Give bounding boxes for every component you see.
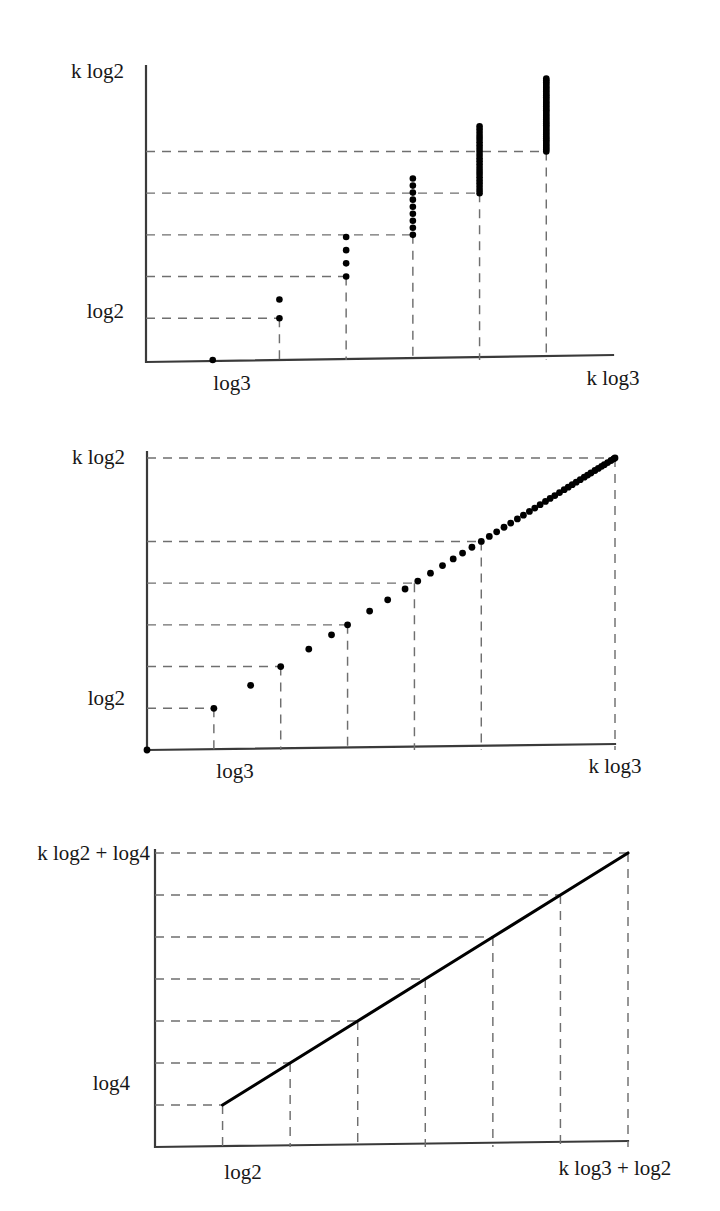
- x-axis-last-label: k log3 + log2: [559, 1156, 672, 1180]
- data-point: [410, 217, 417, 224]
- figure-stack: k log2 log2 log3 k log3 k log2 log2 log3…: [0, 0, 720, 1211]
- data-point: [144, 747, 151, 754]
- data-point: [410, 182, 417, 189]
- data-point: [410, 203, 417, 210]
- figure-scatter-clusters: k log2 log2 log3 k log3: [0, 0, 720, 400]
- data-point: [277, 663, 284, 670]
- data-point: [427, 570, 434, 577]
- data-point: [343, 260, 350, 267]
- data-point: [493, 528, 500, 535]
- data-point: [514, 516, 521, 523]
- data-point: [343, 273, 350, 280]
- x-axis-last-label: k log3: [588, 754, 641, 778]
- figure-1-canvas: k log2 log2 log3 k log3: [0, 0, 720, 400]
- data-point: [328, 631, 335, 638]
- data-point: [476, 123, 483, 130]
- data-point: [478, 538, 485, 545]
- data-point: [209, 357, 216, 364]
- data-point: [343, 234, 350, 241]
- y-axis-top-label: k log2: [72, 445, 125, 469]
- data-point: [247, 682, 254, 689]
- data-point: [276, 315, 283, 322]
- data-point: [410, 225, 417, 232]
- data-point: [410, 210, 417, 217]
- y-axis-low-label: log2: [88, 686, 125, 710]
- y-axis-top-label: k log2: [71, 59, 124, 83]
- data-point: [543, 75, 550, 82]
- data-point: [210, 705, 217, 712]
- data-point: [305, 646, 312, 653]
- data-point: [439, 562, 446, 569]
- data-point: [402, 586, 409, 593]
- figure-2-data-points: [144, 455, 619, 754]
- data-point: [469, 544, 476, 551]
- data-point: [366, 608, 373, 615]
- x-axis-first-label: log2: [224, 1160, 261, 1184]
- figure-piecewise-linear: k log2 + log4 log4 log2 k log3 + log2: [0, 805, 720, 1211]
- figure-2-axes: [147, 452, 615, 750]
- figure-2-canvas: k log2 log2 log3 k log3: [0, 400, 720, 805]
- y-axis-low-label: log2: [87, 299, 124, 323]
- x-axis-first-label: log3: [216, 759, 253, 783]
- figure-1-gridlines: [146, 151, 546, 360]
- data-point: [410, 175, 417, 182]
- data-point: [410, 232, 417, 239]
- data-point: [343, 247, 350, 254]
- data-point: [276, 296, 283, 303]
- data-point: [507, 520, 514, 527]
- data-point: [520, 512, 527, 519]
- figure-3-canvas: k log2 + log4 log4 log2 k log3 + log2: [0, 805, 720, 1211]
- y-axis-top-label: k log2 + log4: [37, 841, 150, 865]
- figure-monotone-sequence: k log2 log2 log3 k log3: [0, 400, 720, 805]
- data-point: [459, 550, 466, 557]
- data-point: [410, 189, 417, 196]
- data-point: [384, 596, 391, 603]
- x-axis-first-label: log3: [213, 371, 250, 395]
- data-point: [501, 524, 508, 531]
- data-point: [486, 533, 493, 540]
- x-axis-last-label: k log3: [586, 366, 639, 390]
- data-point: [414, 578, 421, 585]
- x-axis-line: [146, 355, 613, 362]
- data-point: [344, 621, 351, 628]
- x-axis-line: [155, 1141, 628, 1147]
- data-point: [410, 196, 417, 203]
- x-axis-line: [147, 744, 615, 750]
- y-axis-low-label: log4: [93, 1071, 131, 1095]
- figure-1-data-points: [209, 75, 549, 363]
- data-point: [612, 455, 619, 462]
- data-point: [450, 556, 457, 563]
